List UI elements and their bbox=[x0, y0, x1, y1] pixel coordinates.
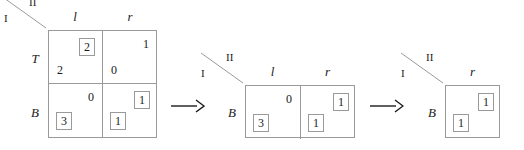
game-matrix-stage-3: II I r B 1 1 bbox=[445, 85, 500, 138]
arrow-1 bbox=[171, 98, 205, 114]
cell-B-r-row-payoff: 1 bbox=[453, 114, 469, 132]
cell-T-r-column-payoff: 1 bbox=[142, 38, 150, 50]
corner-divider-stage-1: II I bbox=[2, 0, 48, 30]
cell-B-r-column-payoff: 1 bbox=[333, 93, 349, 111]
cell-T-l-row-payoff: 2 bbox=[56, 64, 64, 76]
corner-label-player-one: I bbox=[201, 68, 205, 79]
cell-B-r: 1 1 bbox=[446, 86, 501, 139]
cell-B-l-row-payoff: 3 bbox=[253, 114, 269, 132]
cell-B-r-row-payoff: 1 bbox=[110, 112, 126, 130]
game-matrix-stage-2: II I l r B 0 3 1 1 bbox=[245, 85, 355, 138]
corner-label-player-two: II bbox=[29, 0, 36, 8]
corner-label-player-one: I bbox=[401, 68, 405, 79]
game-matrix-stage-1: II I l r T B 2 2 1 0 0 3 1 1 bbox=[48, 30, 157, 138]
corner-divider-stage-2: II I bbox=[199, 51, 245, 85]
cell-B-r-column-payoff: 1 bbox=[478, 93, 494, 111]
column-label-r: r bbox=[103, 10, 157, 23]
corner-label-player-two: II bbox=[226, 52, 233, 63]
row-label-B: B bbox=[425, 106, 439, 119]
arrow-2 bbox=[370, 98, 404, 114]
cell-T-l: 2 2 bbox=[49, 31, 103, 84]
cell-B-l: 0 3 bbox=[49, 84, 103, 137]
corner-label-player-two: II bbox=[426, 52, 433, 63]
row-label-T: T bbox=[28, 52, 42, 65]
cell-T-r: 1 0 bbox=[103, 31, 157, 84]
cell-B-l-row-payoff: 3 bbox=[56, 112, 72, 130]
payoff-grid-stage-3: 1 1 bbox=[445, 85, 500, 138]
game-reduction-figure: II I l r T B 2 2 1 0 0 3 1 1 bbox=[0, 0, 524, 150]
row-label-B: B bbox=[225, 106, 239, 119]
cell-T-r-row-payoff: 0 bbox=[110, 64, 118, 76]
cell-B-r-column-payoff: 1 bbox=[134, 91, 150, 109]
column-label-r: r bbox=[300, 65, 355, 78]
column-label-l: l bbox=[48, 10, 102, 23]
cell-B-l-column-payoff: 0 bbox=[87, 91, 95, 103]
payoff-grid-stage-1: 2 2 1 0 0 3 1 1 bbox=[48, 30, 157, 138]
cell-B-r: 1 1 bbox=[301, 86, 356, 139]
cell-B-l: 0 3 bbox=[246, 86, 301, 139]
cell-B-r-row-payoff: 1 bbox=[308, 114, 324, 132]
column-label-r: r bbox=[445, 65, 500, 78]
cell-T-l-column-payoff: 2 bbox=[79, 38, 95, 56]
corner-divider-stage-3: II I bbox=[399, 51, 445, 85]
corner-label-player-one: I bbox=[4, 13, 8, 24]
row-label-B: B bbox=[28, 106, 42, 119]
cell-B-l-column-payoff: 0 bbox=[285, 93, 293, 105]
cell-B-r: 1 1 bbox=[103, 84, 157, 137]
payoff-grid-stage-2: 0 3 1 1 bbox=[245, 85, 355, 138]
column-label-l: l bbox=[245, 65, 300, 78]
